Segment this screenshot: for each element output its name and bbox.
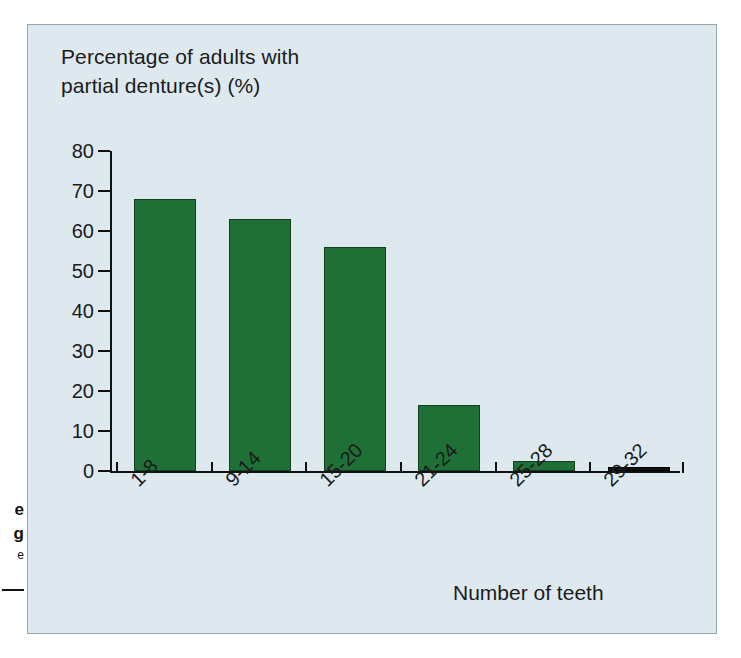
y-axis-title: Percentage of adults with partial dentur… — [61, 43, 299, 101]
y-tick-label-30: 30 — [48, 340, 94, 363]
y-axis-tick-labels: 01020304050607080 — [48, 151, 94, 471]
bar-15-20 — [324, 247, 386, 471]
bleed-rule — [2, 589, 24, 591]
bleed-fragment-3: e — [17, 549, 24, 561]
bleed-fragment-2: g — [14, 525, 24, 542]
y-tick-label-50: 50 — [48, 260, 94, 283]
y-tick-60 — [98, 230, 110, 232]
y-tick-0 — [98, 470, 110, 472]
y-tick-10 — [98, 430, 110, 432]
y-tick-40 — [98, 310, 110, 312]
bar-9-14 — [229, 219, 291, 471]
page-bleed-fragments: e g e — [0, 495, 26, 615]
y-tick-30 — [98, 350, 110, 352]
y-tick-label-80: 80 — [48, 140, 94, 163]
y-tick-70 — [98, 190, 110, 192]
y-tick-label-20: 20 — [48, 380, 94, 403]
y-tick-label-10: 10 — [48, 420, 94, 443]
x-axis-line — [110, 471, 680, 473]
y-tick-label-40: 40 — [48, 300, 94, 323]
y-tick-20 — [98, 390, 110, 392]
bar-series — [112, 151, 680, 471]
chart-panel: Percentage of adults with partial dentur… — [27, 24, 717, 634]
bleed-fragment-1: e — [15, 501, 24, 518]
x-axis-title: Number of teeth — [453, 581, 604, 605]
y-tick-80 — [98, 150, 110, 152]
bar-1-8 — [134, 199, 196, 471]
y-tick-50 — [98, 270, 110, 272]
y-tick-label-60: 60 — [48, 220, 94, 243]
chart-axes: 01020304050607080 — [110, 151, 680, 471]
x-tick-end — [682, 462, 684, 473]
x-axis-tick-labels: 1-89-1415-2021-2425-2829-32 — [112, 475, 682, 565]
y-tick-label-70: 70 — [48, 180, 94, 203]
y-tick-label-0: 0 — [48, 460, 94, 483]
